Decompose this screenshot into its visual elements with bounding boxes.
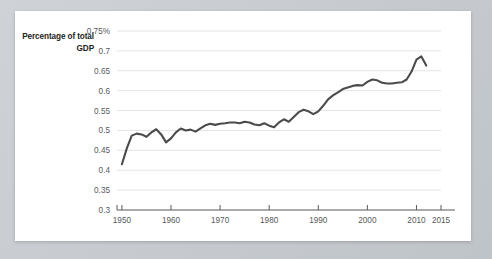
x-tick-label: 2000 [358, 216, 377, 225]
x-tick-label: 1990 [309, 216, 328, 225]
y-axis-tick-labels: 0.75%0.70.650.60.550.50.450.40.350.3 [87, 27, 111, 215]
x-tick-label: 1960 [162, 216, 181, 225]
y-tick-label: 0.4 [99, 166, 111, 175]
x-axis-tick-labels: 19501960197019801990200020102015 [113, 216, 451, 225]
y-tick-label: 0.6 [99, 87, 111, 96]
x-tick-label: 1970 [211, 216, 230, 225]
y-tick-label: 0.65 [94, 67, 110, 76]
chart-card: Percentage of total GDP 0.75%0.70.650.60… [15, 11, 471, 241]
gridlines [117, 31, 441, 190]
page-background: Percentage of total GDP 0.75%0.70.650.60… [0, 0, 492, 259]
y-tick-label: 0.5 [99, 126, 111, 135]
line-chart: 0.75%0.70.650.60.550.50.450.40.350.3 195… [15, 11, 471, 241]
x-tick-label: 1980 [260, 216, 279, 225]
y-tick-label: 0.55 [94, 107, 110, 116]
y-tick-label: 0.7 [99, 47, 111, 56]
y-tick-label: 0.35 [94, 186, 110, 195]
x-axis [117, 205, 455, 210]
x-tick-label: 1950 [113, 216, 132, 225]
x-tick-label: 2010 [407, 216, 426, 225]
y-tick-label: 0.75% [87, 27, 110, 36]
y-tick-label: 0.45 [94, 146, 110, 155]
chart-card-inner: Percentage of total GDP 0.75%0.70.650.60… [15, 11, 471, 241]
y-tick-label: 0.3 [99, 206, 111, 215]
x-tick-label: 2015 [432, 216, 451, 225]
